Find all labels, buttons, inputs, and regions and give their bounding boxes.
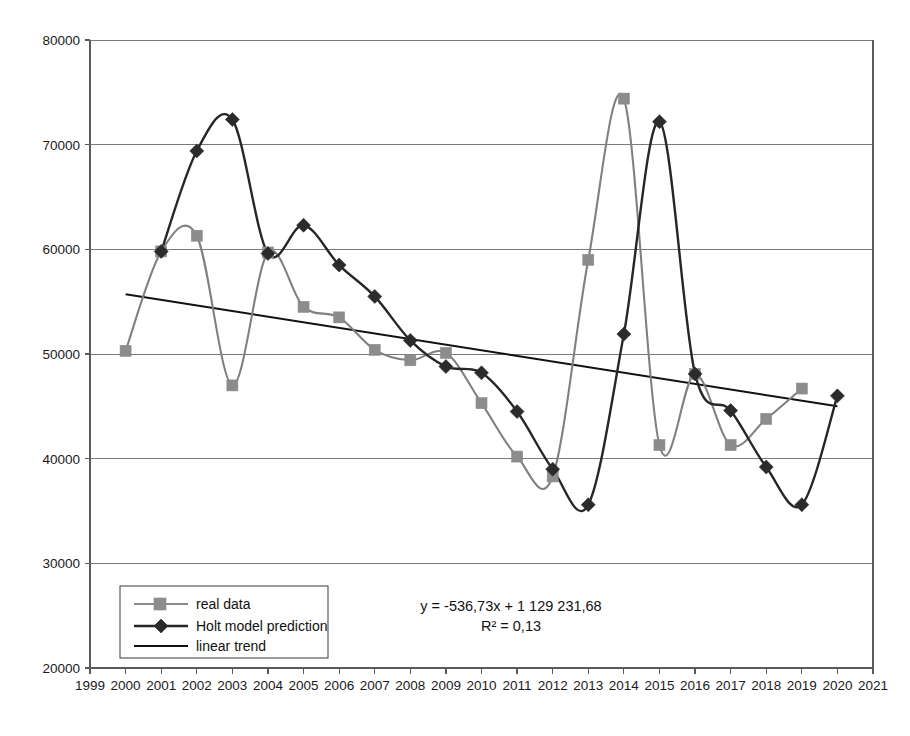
x-axis-label-2000: 2000 (111, 678, 141, 693)
data-point-holt-2005 (297, 218, 311, 232)
x-axis-label-1999: 1999 (75, 678, 105, 693)
data-point-holt-2020 (830, 389, 844, 403)
legend-label-real-data: real data (196, 596, 251, 612)
x-axis-label-2021: 2021 (858, 678, 888, 693)
data-point-real-2008 (405, 355, 416, 366)
y-axis-tick-labels: 80000700006000050000400003000020000 (42, 33, 80, 676)
chart-container: 80000700006000050000400003000020000 1999… (0, 0, 910, 736)
series-line-real-data (126, 94, 802, 489)
x-axis-label-2019: 2019 (787, 678, 817, 693)
gridlines-group (90, 40, 873, 563)
data-point-real-2010 (476, 398, 487, 409)
y-axis-label-40000: 40000 (42, 452, 80, 467)
x-axis-label-2001: 2001 (146, 678, 176, 693)
data-point-real-2019 (796, 383, 807, 394)
x-axis-label-2008: 2008 (395, 678, 425, 693)
data-point-real-2003 (227, 380, 238, 391)
data-point-real-2000 (120, 345, 131, 356)
x-axis-label-2016: 2016 (680, 678, 710, 693)
data-point-holt-2009 (439, 360, 453, 374)
series-markers-holt-prediction (154, 113, 844, 512)
trend-equation-text: y = -536,73x + 1 129 231,68 (420, 598, 601, 614)
y-axis-label-30000: 30000 (42, 556, 80, 571)
y-axis-label-80000: 80000 (42, 33, 80, 48)
data-point-real-2011 (512, 451, 523, 462)
x-axis-label-2004: 2004 (253, 678, 284, 693)
x-axis-label-2015: 2015 (644, 678, 674, 693)
x-axis-label-2006: 2006 (324, 678, 354, 693)
x-axis-label-2009: 2009 (431, 678, 461, 693)
r-squared-text: R² = 0,13 (481, 618, 541, 634)
x-axis-label-2020: 2020 (822, 678, 852, 693)
x-axis-label-2012: 2012 (538, 678, 568, 693)
x-axis-label-2005: 2005 (289, 678, 319, 693)
x-axis-label-2018: 2018 (751, 678, 781, 693)
data-point-real-2009 (440, 347, 451, 358)
data-point-real-2018 (761, 413, 772, 424)
series-markers-real-data (120, 93, 807, 482)
data-point-holt-2014 (617, 327, 631, 341)
x-axis-label-2010: 2010 (466, 678, 496, 693)
x-axis-tick-labels: 1999200020012002200320042005200620072008… (75, 678, 888, 693)
tick-marks-group (85, 40, 873, 674)
x-axis-label-2007: 2007 (360, 678, 390, 693)
trend-equation-annotation: y = -536,73x + 1 129 231,68 R² = 0,13 (420, 598, 601, 634)
x-axis-label-2017: 2017 (716, 678, 746, 693)
series-line-holt-prediction (161, 114, 837, 511)
data-point-real-2017 (725, 440, 736, 451)
data-point-real-2014 (618, 93, 629, 104)
data-point-real-2013 (583, 254, 594, 265)
data-point-real-2002 (191, 230, 202, 241)
data-point-real-2007 (369, 344, 380, 355)
legend-label-linear-trend: linear trend (196, 638, 266, 654)
y-axis-label-50000: 50000 (42, 347, 80, 362)
x-axis-label-2014: 2014 (609, 678, 640, 693)
y-axis-label-60000: 60000 (42, 242, 80, 257)
x-axis-label-2013: 2013 (573, 678, 603, 693)
data-point-holt-2019 (795, 498, 809, 512)
line-chart: 80000700006000050000400003000020000 1999… (0, 0, 910, 736)
data-point-real-2005 (298, 301, 309, 312)
chart-legend: real data Holt model prediction linear t… (120, 586, 328, 658)
data-point-holt-2002 (190, 144, 204, 158)
data-point-real-2015 (654, 440, 665, 451)
legend-swatch-marker-real-data (154, 598, 166, 610)
y-axis-label-70000: 70000 (42, 138, 80, 153)
x-axis-label-2011: 2011 (503, 678, 532, 693)
y-axis-label-20000: 20000 (42, 661, 80, 676)
data-point-real-2006 (334, 312, 345, 323)
x-axis-label-2003: 2003 (217, 678, 247, 693)
legend-label-holt-prediction: Holt model prediction (196, 618, 328, 634)
x-axis-label-2002: 2002 (182, 678, 212, 693)
